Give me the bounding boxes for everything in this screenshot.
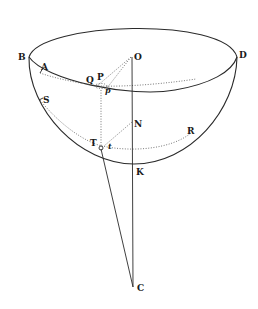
line-t-c bbox=[101, 149, 133, 287]
bowl-outline bbox=[29, 57, 237, 164]
label-t: T bbox=[90, 138, 97, 148]
label-d: D bbox=[239, 50, 247, 60]
label-c: C bbox=[137, 283, 144, 293]
label-o: O bbox=[134, 52, 142, 62]
label-t-small: t bbox=[108, 141, 112, 151]
rim-front-arc bbox=[29, 57, 237, 92]
dotted-circle-upper bbox=[40, 73, 196, 86]
rim-back-arc bbox=[29, 28, 237, 57]
label-s: S bbox=[43, 95, 50, 105]
hemisphere-diagram: B D O A Q P p S N R T t K C bbox=[0, 0, 258, 309]
dotted-arc-lower bbox=[40, 100, 191, 149]
label-b: B bbox=[18, 52, 26, 62]
label-a: A bbox=[40, 62, 49, 72]
line-o-p2 bbox=[107, 57, 131, 88]
label-p-small: p bbox=[105, 85, 111, 95]
label-p: P bbox=[97, 72, 104, 82]
label-n: N bbox=[134, 119, 142, 129]
label-k: K bbox=[136, 167, 145, 177]
label-r: R bbox=[187, 126, 195, 136]
label-q: Q bbox=[86, 75, 94, 85]
